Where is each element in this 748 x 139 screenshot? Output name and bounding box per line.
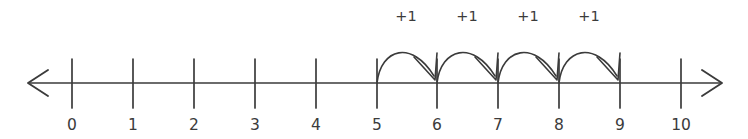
tick-label-7: 7 [493, 116, 503, 134]
tick-label-8: 8 [554, 116, 564, 134]
jump-arc-5-to-6 [377, 53, 437, 83]
tick-label-6: 6 [432, 116, 442, 134]
tick-label-2: 2 [189, 116, 199, 134]
tick-label-0: 0 [67, 116, 77, 134]
jump-label-4: +1 [578, 8, 599, 24]
tick-label-5: 5 [372, 116, 382, 134]
tick-label-4: 4 [311, 116, 321, 134]
tick-label-9: 9 [615, 116, 625, 134]
number-line-figure: 0 1 2 3 4 5 6 7 8 9 10 +1 [0, 0, 748, 139]
jump-arc-path [559, 53, 617, 83]
jump-arc-8-to-9 [559, 53, 620, 83]
jump-arc-path [377, 53, 434, 83]
jump-arc-6-to-7 [437, 53, 498, 83]
jump-label-2: +1 [456, 8, 477, 24]
jump-arc-7-to-8 [498, 53, 559, 83]
tick-label-1: 1 [128, 116, 138, 134]
jump-label-1: +1 [395, 8, 416, 24]
number-line-diagram: 0 1 2 3 4 5 6 7 8 9 10 +1 [0, 0, 748, 139]
jump-arc-path [498, 53, 556, 83]
tick-label-10: 10 [671, 116, 691, 134]
jump-label-3: +1 [517, 8, 538, 24]
tick-label-3: 3 [250, 116, 260, 134]
jump-arc-path [437, 53, 495, 83]
